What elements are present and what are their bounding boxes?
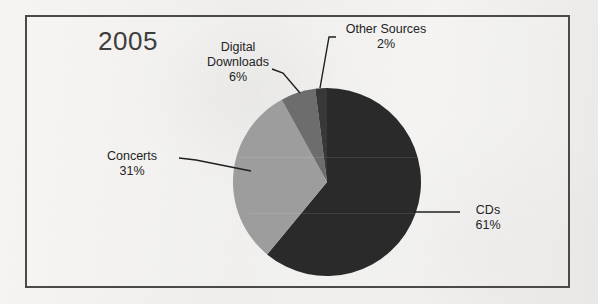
- chart-title-year: 2005: [98, 26, 158, 57]
- slice-value-concerts: 31%: [86, 164, 178, 179]
- slice-label-digital-downloads-line2: Downloads: [196, 55, 280, 70]
- slice-label-cds: CDs 61%: [462, 203, 514, 233]
- slice-label-concerts-name: Concerts: [86, 149, 178, 164]
- leader-line-other-sources: [320, 37, 336, 88]
- slice-label-other-sources-name: Other Sources: [338, 22, 434, 37]
- slice-value-cds: 61%: [462, 218, 514, 233]
- slice-label-digital-downloads: Digital Downloads 6%: [196, 40, 280, 85]
- slice-label-cds-name: CDs: [462, 203, 514, 218]
- slice-label-other-sources: Other Sources 2%: [338, 22, 434, 52]
- slice-value-other-sources: 2%: [338, 37, 434, 52]
- slice-value-digital-downloads: 6%: [196, 70, 280, 85]
- slice-label-concerts: Concerts 31%: [86, 149, 178, 179]
- slice-label-digital-downloads-line1: Digital: [196, 40, 280, 55]
